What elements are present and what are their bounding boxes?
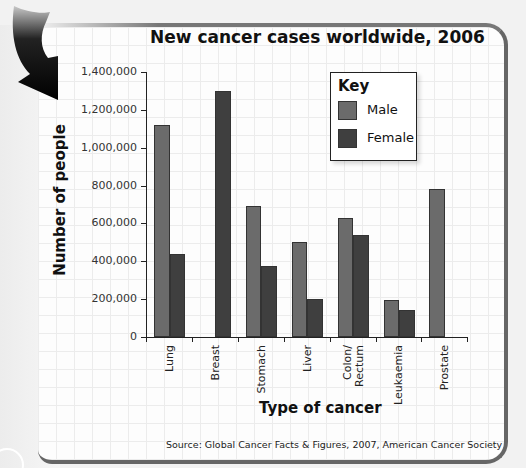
- legend-swatch-male: [338, 101, 357, 120]
- x-tick-mark: [192, 337, 193, 342]
- legend-label-male: Male: [367, 102, 398, 117]
- x-tick-mark: [467, 337, 468, 342]
- bar-male: [338, 218, 354, 337]
- x-tick-mark: [284, 337, 285, 342]
- x-category-label: Breast: [210, 345, 222, 405]
- y-tick-label: 200,000: [67, 292, 137, 305]
- x-category-label: Stomach: [256, 345, 268, 405]
- legend-swatch-female: [338, 129, 357, 148]
- y-tick-label: 1,000,000: [67, 141, 137, 154]
- bar-male: [429, 189, 445, 337]
- legend-label-female: Female: [367, 130, 414, 145]
- y-tick-label: 1,200,000: [67, 103, 137, 116]
- bar-female: [307, 299, 323, 337]
- bar-female: [399, 310, 415, 337]
- y-tick-label: 1,400,000: [67, 65, 137, 78]
- x-tick-mark: [421, 337, 422, 342]
- source-caption: Source: Global Cancer Facts & Figures, 2…: [166, 439, 502, 450]
- x-tick-mark: [330, 337, 331, 342]
- bar-female: [261, 266, 277, 337]
- bar-female: [353, 235, 369, 337]
- chart-title: New cancer cases worldwide, 2006: [150, 27, 485, 47]
- bar-male: [154, 125, 170, 337]
- legend: Key Male Female: [330, 72, 417, 161]
- y-axis-line: [146, 72, 147, 338]
- x-category-label: Liver: [302, 345, 314, 405]
- bar-male: [384, 300, 400, 337]
- legend-title: Key: [338, 77, 369, 95]
- x-tick-mark: [238, 337, 239, 342]
- y-tick-label: 600,000: [67, 216, 137, 229]
- y-tick-label: 800,000: [67, 179, 137, 192]
- bar-male: [292, 242, 308, 337]
- x-axis-line: [146, 337, 468, 338]
- x-axis-label: Type of cancer: [259, 399, 382, 417]
- bar-female: [170, 254, 186, 337]
- bar-female: [215, 91, 231, 337]
- y-tick-label: 400,000: [67, 254, 137, 267]
- x-category-label: Prostate: [439, 345, 451, 405]
- x-tick-mark: [376, 337, 377, 342]
- y-tick-label: 0: [67, 330, 137, 343]
- x-tick-mark: [146, 337, 147, 342]
- x-category-label: Lung: [164, 345, 176, 405]
- x-category-label: Leukaemia: [393, 345, 405, 405]
- x-category-label: Colon/Rectum: [342, 345, 366, 405]
- curved-arrow-icon: [0, 0, 80, 110]
- bar-male: [246, 206, 262, 337]
